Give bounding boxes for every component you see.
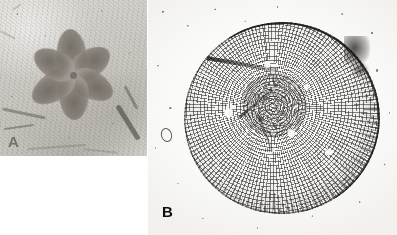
panel-a-whitespace <box>0 156 147 235</box>
panel-a-fossil-rosette: A <box>0 0 147 156</box>
panel-label-b: B <box>162 204 173 219</box>
panel-label-a: A <box>8 134 19 149</box>
figure-plate: A B <box>0 0 397 235</box>
fossil-disc <box>175 12 390 223</box>
rosette-fossil <box>18 14 128 136</box>
panel-b-fossil-disc: B <box>148 0 397 235</box>
rosette-center-hub <box>70 72 77 79</box>
